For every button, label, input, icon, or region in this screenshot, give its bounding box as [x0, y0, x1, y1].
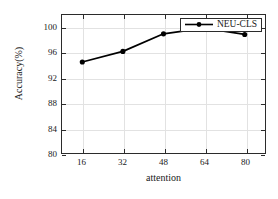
y-axis-tick [62, 28, 66, 29]
x-axis-tick [247, 149, 248, 153]
x-axis-tick-label: 16 [77, 158, 86, 167]
y-axis-tick-label: 80 [48, 150, 57, 159]
legend-label-neu-cls: NEU-CLS [217, 20, 257, 30]
legend-line-marker-icon [184, 20, 214, 29]
y-axis-tick-label: 100 [44, 22, 58, 31]
x-axis-tick [124, 15, 125, 19]
y-axis-tick [261, 130, 265, 131]
y-axis-tick [62, 79, 66, 80]
chart-legend: NEU-CLS [180, 18, 262, 32]
x-axis-tick [165, 15, 166, 19]
x-axis-tick-label: 80 [241, 158, 250, 167]
data-point-marker [120, 49, 125, 54]
y-axis-tick-label: 92 [48, 73, 57, 82]
x-axis-tick [206, 149, 207, 153]
x-axis-tick [206, 15, 207, 19]
x-axis-tick-label: 64 [200, 158, 209, 167]
x-axis-tick [247, 15, 248, 19]
y-axis-tick [62, 104, 66, 105]
y-axis-title: Accuracy(%) [13, 18, 24, 130]
x-axis-tick-labels: 1632486480 [61, 158, 266, 170]
y-axis-tick-label: 84 [48, 124, 57, 133]
y-axis-tick [261, 53, 265, 54]
y-axis-tick [261, 28, 265, 29]
data-point-marker [161, 31, 166, 36]
series-line-neu-cls [62, 15, 265, 153]
x-axis-tick-label: 32 [118, 158, 127, 167]
chart-figure: 8084889296100 Accuracy(%) NEU-CLS 163248… [0, 0, 278, 199]
x-axis-tick [83, 15, 84, 19]
x-axis-tick-label: 48 [159, 158, 168, 167]
data-point-marker [80, 59, 85, 64]
y-axis-tick-labels: 8084889296100 [26, 14, 57, 154]
y-axis-tick [261, 104, 265, 105]
y-axis-tick [62, 130, 66, 131]
data-point-marker [242, 32, 247, 37]
plot-area: NEU-CLS [61, 14, 266, 154]
y-axis-tick [62, 53, 66, 54]
y-axis-tick-label: 96 [48, 48, 57, 57]
x-axis-tick [83, 149, 84, 153]
x-axis-title: attention [61, 172, 266, 183]
x-axis-tick [165, 149, 166, 153]
y-axis-tick [261, 79, 265, 80]
y-axis-tick [62, 155, 66, 156]
y-axis-tick [261, 155, 265, 156]
x-axis-tick [124, 149, 125, 153]
y-axis-tick-label: 88 [48, 99, 57, 108]
